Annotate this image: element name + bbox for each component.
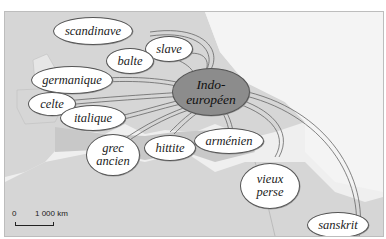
language-label-line2: ancien (96, 155, 129, 168)
language-balte: balte (106, 48, 154, 74)
language-label: germanique (42, 74, 102, 87)
center-label-line2: européen (186, 92, 236, 107)
map-frame: Indo- européen scandinave slave balte ge… (4, 11, 384, 237)
language-label: sanskrit (318, 219, 358, 232)
language-scandinave: scandinave (53, 17, 133, 45)
language-grec-ancien: grec ancien (86, 134, 140, 176)
language-label: hittite (155, 142, 184, 155)
scale-distance-label: 1 000 km (35, 209, 68, 218)
center-label-line1: Indo- (196, 77, 225, 92)
language-armenien: arménien (194, 128, 264, 154)
language-label: arménien (205, 135, 252, 148)
indo-europeen-node: Indo- européen (172, 68, 250, 116)
language-vieux-perse: vieux perse (240, 163, 300, 209)
scale-line (15, 222, 54, 226)
language-label: italique (74, 112, 112, 125)
language-label: balte (118, 55, 143, 68)
language-label: scandinave (65, 25, 121, 38)
language-germanique: germanique (31, 66, 113, 94)
language-label: slave (156, 43, 182, 56)
language-label: celte (40, 98, 64, 111)
language-label-line2: perse (256, 186, 283, 199)
scale-zero-label: 0 (12, 209, 16, 218)
map-background (5, 12, 383, 236)
language-sanskrit: sanskrit (307, 212, 369, 237)
language-hittite: hittite (144, 135, 196, 161)
language-italique: italique (60, 105, 126, 131)
